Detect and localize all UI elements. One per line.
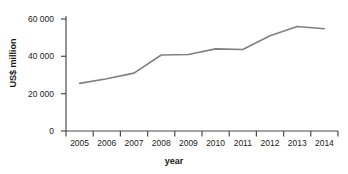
chart-screenshot: 60 000 40 000 20 000 0 2005 2006 2007 20…	[0, 0, 348, 174]
y-tick-label-60000: 60 000	[6, 14, 54, 24]
x-tick-label-2012: 2012	[255, 138, 285, 148]
x-tick-label-2006: 2006	[92, 138, 122, 148]
x-axis-title: year	[0, 156, 348, 166]
x-tick-label-2007: 2007	[119, 138, 149, 148]
x-tick-label-2013: 2013	[282, 138, 312, 148]
x-axis-ticks	[66, 131, 338, 137]
x-tick-label-2010: 2010	[201, 138, 231, 148]
y-tick-label-0: 0	[6, 126, 54, 136]
x-tick-label-2008: 2008	[146, 138, 176, 148]
y-axis-title: US$ million	[8, 26, 18, 100]
x-tick-label-2005: 2005	[65, 138, 95, 148]
x-tick-label-2009: 2009	[173, 138, 203, 148]
x-tick-label-2014: 2014	[309, 138, 339, 148]
x-tick-label-2011: 2011	[228, 138, 258, 148]
data-series-line	[80, 26, 325, 83]
y-axis-ticks	[61, 19, 66, 131]
